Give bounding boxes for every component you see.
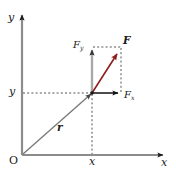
x-tick-label: x: [89, 156, 95, 167]
force-component-x-label: Fx: [124, 90, 134, 100]
x-axis-label: x: [161, 157, 167, 168]
force-vector-label: F: [123, 35, 130, 46]
position-vector-label: r: [57, 122, 63, 133]
force-component-x-main: F: [124, 89, 131, 100]
force-component-x-sub: x: [131, 94, 135, 101]
force-component-y-label: Fy: [73, 40, 83, 50]
y-axis-label: y: [8, 12, 14, 23]
force-vector-F-arrow: [92, 54, 117, 93]
force-component-y-sub: y: [80, 44, 84, 51]
origin-label: O: [9, 155, 18, 166]
diagram-canvas: [0, 0, 176, 169]
force-component-y-main: F: [73, 39, 80, 50]
vector-diagram-figure: y x O y x F r Fy Fx: [0, 0, 176, 169]
point-marker: [90, 91, 94, 95]
y-tick-label: y: [9, 86, 15, 97]
